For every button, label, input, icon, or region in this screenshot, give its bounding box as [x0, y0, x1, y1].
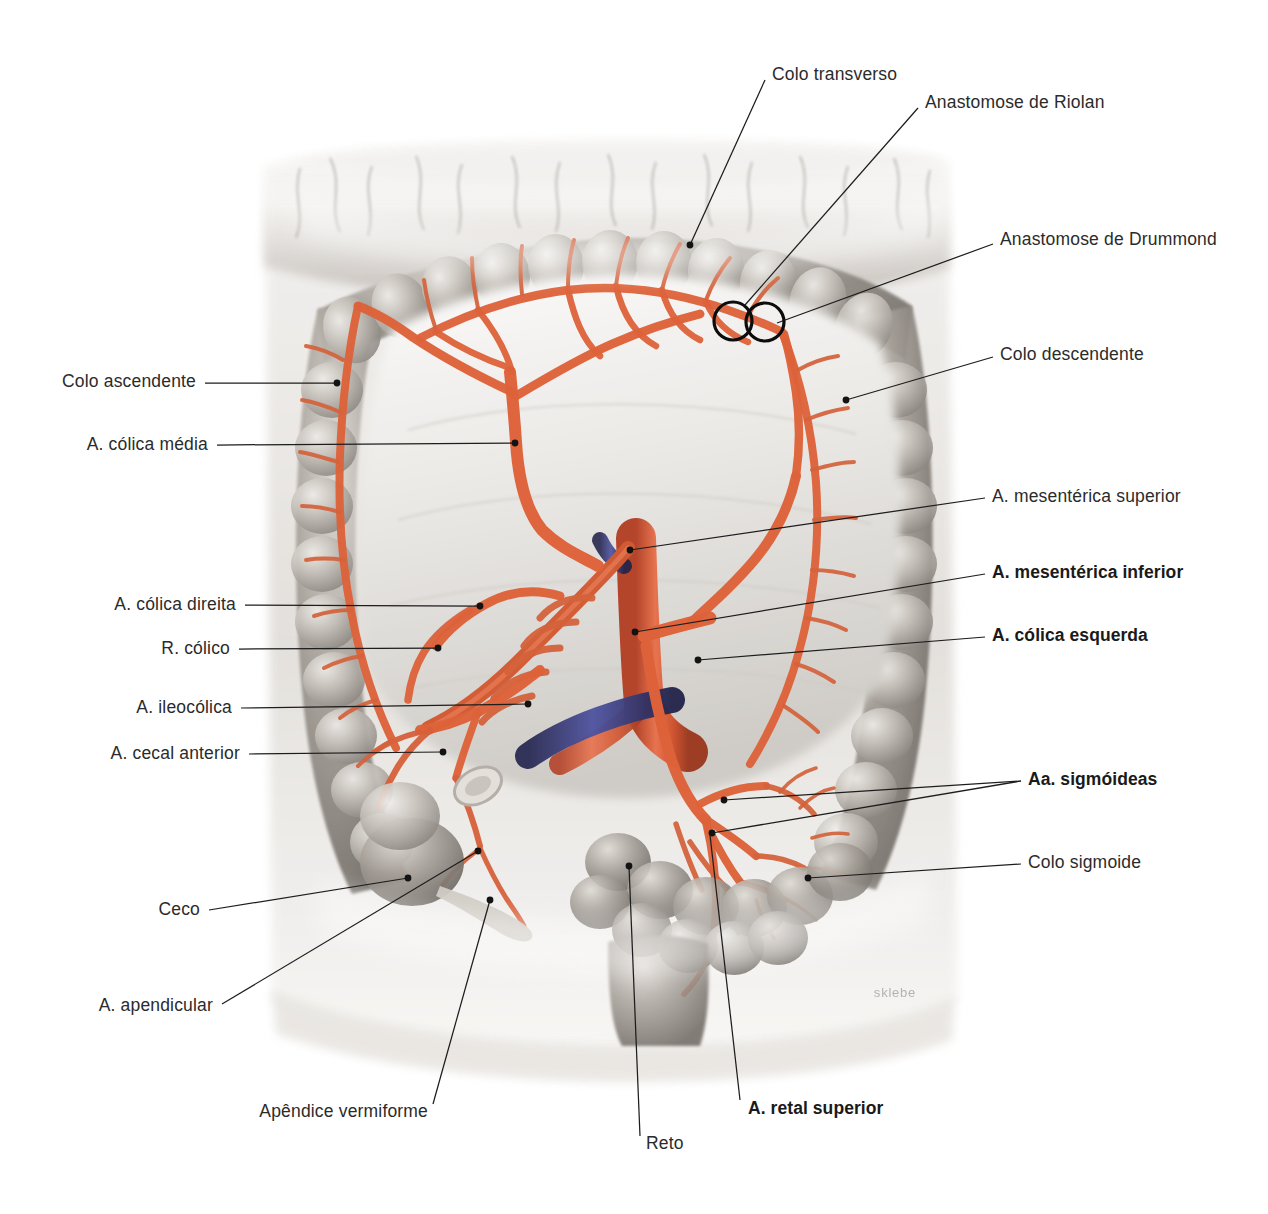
- label-a-cecal-anterior: A. cecal anterior: [111, 743, 240, 763]
- label-a-colica-esquerda: A. cólica esquerda: [992, 625, 1148, 645]
- label-r-colico: R. cólico: [161, 638, 230, 658]
- anatomy-figure: Colo transversoAnastomose de RiolanAnast…: [0, 0, 1268, 1214]
- label-apendice-vermiforme: Apêndice vermiforme: [259, 1101, 428, 1121]
- label-a-mesenterica-inferior: A. mesentérica inferior: [992, 562, 1183, 582]
- artist-signature: sklebe: [874, 985, 916, 1000]
- label-colo-descendente: Colo descendente: [1000, 344, 1144, 364]
- label-anastomose-drummond: Anastomose de Drummond: [1000, 229, 1217, 249]
- label-a-ileocolica: A. ileocólica: [136, 697, 232, 717]
- label-layer: Colo transversoAnastomose de RiolanAnast…: [0, 0, 1268, 1214]
- label-a-colica-direita: A. cólica direita: [114, 594, 236, 614]
- label-a-retal-superior: A. retal superior: [748, 1098, 883, 1118]
- label-a-colica-media: A. cólica média: [87, 434, 208, 454]
- label-reto: Reto: [646, 1133, 684, 1153]
- label-a-mesenterica-superior: A. mesentérica superior: [992, 486, 1181, 506]
- label-colo-ascendente: Colo ascendente: [62, 371, 196, 391]
- label-colo-sigmoide: Colo sigmoide: [1028, 852, 1141, 872]
- label-aa-sigmoideas: Aa. sigmóideas: [1028, 769, 1157, 789]
- label-a-apendicular: A. apendicular: [99, 995, 213, 1015]
- label-colo-transverso: Colo transverso: [772, 64, 897, 84]
- label-anastomose-riolan: Anastomose de Riolan: [925, 92, 1105, 112]
- label-ceco: Ceco: [158, 899, 200, 919]
